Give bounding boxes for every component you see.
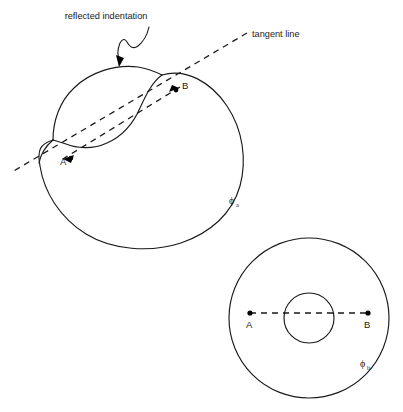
diagram-canvas: A B ϕ a reflected indentation tangent li…	[0, 0, 403, 412]
tangent-line-callout: tangent line	[252, 29, 300, 39]
shape-a-indentation-top-arc	[53, 66, 162, 140]
reflected-indentation-label: reflected indentation	[65, 11, 148, 21]
shape-b-inner-circle	[284, 293, 334, 343]
reflected-indentation-leader	[118, 27, 149, 60]
shape-a-indentation-s-curve	[53, 75, 162, 148]
shape-b-region-label-phi: ϕ	[360, 358, 365, 369]
shape-b-point-b-label: B	[364, 319, 370, 330]
shape-b-group: A B ϕ b	[229, 238, 389, 398]
shape-a-point-a-label: A	[60, 156, 67, 167]
shape-a-group: A B ϕ a	[12, 33, 247, 249]
tangent-line-label: tangent line	[252, 29, 300, 39]
reflected-indentation-callout: reflected indentation	[65, 11, 149, 67]
shape-b-point-a-label: A	[246, 319, 253, 330]
diagram-svg: A B ϕ a reflected indentation tangent li…	[0, 0, 403, 412]
reflected-indentation-arrowhead	[116, 55, 124, 67]
tangent-line-dashed	[12, 33, 247, 172]
shape-a-point-b-dot	[174, 88, 179, 93]
shape-a-point-a-dot	[69, 156, 74, 161]
shape-b-point-b-dot	[365, 310, 370, 315]
shape-a-region-label-phi: ϕ	[229, 195, 234, 206]
shape-b-outer-circle	[229, 238, 389, 398]
shape-a-point-b-label: B	[182, 80, 188, 91]
shape-a-region-label-subscript: a	[236, 201, 239, 208]
shape-b-point-a-dot	[247, 310, 252, 315]
chord-line-dashed	[58, 87, 180, 162]
